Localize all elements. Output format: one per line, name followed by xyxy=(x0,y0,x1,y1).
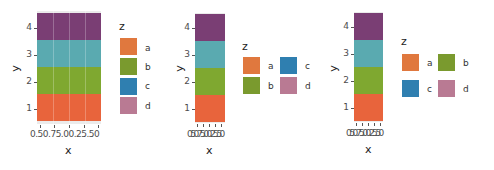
legend-key-b xyxy=(120,58,137,75)
bar-a xyxy=(195,95,225,122)
legend-label-a: a xyxy=(268,61,274,71)
legend-key-b xyxy=(243,77,260,94)
bar-d xyxy=(354,13,383,40)
y-tick-4: 4 xyxy=(335,21,349,31)
bar-c xyxy=(354,40,383,67)
legend-label-b: b xyxy=(145,62,151,72)
bar-b xyxy=(195,68,225,95)
bar-c xyxy=(195,41,225,68)
legend-label-d: d xyxy=(463,84,469,94)
legend-label-a: a xyxy=(145,43,151,53)
legend-title: z xyxy=(119,20,125,33)
chart-panel-3: 4 3 2 1 0.50.75.00.25.50 x y z a b c d xyxy=(324,0,494,170)
x-tick-labels: 0.50.75.00.25.50 xyxy=(187,129,223,139)
legend-label-c: c xyxy=(427,84,432,94)
legend-key-d xyxy=(438,80,455,97)
plot-area-3 xyxy=(354,12,383,122)
y-tick-3: 3 xyxy=(18,49,32,59)
y-tick-2: 2 xyxy=(335,75,349,85)
legend-key-c xyxy=(280,57,297,74)
y-tick-3: 3 xyxy=(176,49,190,59)
bar-b xyxy=(354,67,383,94)
legend-key-c xyxy=(120,78,137,95)
legend-label-d: d xyxy=(145,101,151,111)
legend-key-b xyxy=(438,54,455,71)
y-tick-4: 4 xyxy=(18,22,32,32)
x-axis-title: x xyxy=(206,144,213,157)
legend-label-d: d xyxy=(305,81,311,91)
chart-panel-1: 4 3 2 1 0.50.75.00.25.50 x y z a b c d xyxy=(0,0,160,170)
legend-key-a xyxy=(120,38,137,55)
y-axis-title: y xyxy=(9,65,22,72)
legend-label-c: c xyxy=(305,61,310,71)
x-axis-title: x xyxy=(365,143,372,156)
y-tick-1: 1 xyxy=(18,103,32,113)
x-tick-labels: 0.50.75.00.25.50 xyxy=(346,128,382,138)
y-tick-3: 3 xyxy=(335,48,349,58)
y-axis-title: y xyxy=(173,65,186,72)
chart-panel-2: 4 3 2 1 0.50.75.00.25.50 x y z a b c d xyxy=(160,0,324,170)
legend-label-b: b xyxy=(268,81,274,91)
x-tick-labels: 0.50.75.00.25.50 xyxy=(30,129,99,139)
legend-label-c: c xyxy=(145,81,150,91)
bar-a xyxy=(354,94,383,121)
y-tick-1: 1 xyxy=(335,102,349,112)
legend-title: z xyxy=(401,35,407,48)
bar-d xyxy=(195,14,225,41)
x-axis-title: x xyxy=(65,144,72,157)
legend-key-a xyxy=(402,54,419,71)
legend-key-d xyxy=(120,97,137,114)
legend-title: z xyxy=(242,40,248,53)
legend-key-d xyxy=(280,77,297,94)
y-tick-2: 2 xyxy=(176,76,190,86)
legend-key-a xyxy=(243,57,260,74)
legend-label-b: b xyxy=(463,58,469,68)
legend-label-a: a xyxy=(427,58,433,68)
plot-area-2 xyxy=(195,13,225,123)
y-tick-4: 4 xyxy=(176,22,190,32)
y-tick-2: 2 xyxy=(18,76,32,86)
legend-key-c xyxy=(402,80,419,97)
plot-area-1 xyxy=(37,11,101,124)
y-tick-1: 1 xyxy=(176,103,190,113)
y-axis-title: y xyxy=(327,65,340,72)
